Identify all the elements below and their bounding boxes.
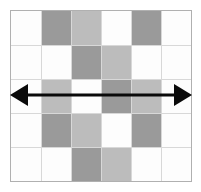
quilt-cell: [41, 79, 71, 113]
quilt-cell: [71, 79, 101, 113]
quilt-cell: [11, 147, 41, 181]
quilt-cell: [101, 79, 131, 113]
quilt-cell: [41, 11, 71, 45]
quilt-cell: [41, 147, 71, 181]
quilt-cell: [131, 79, 161, 113]
quilt-cell: [71, 45, 101, 79]
quilt-cell: [161, 113, 191, 147]
quilt-grid: [11, 11, 191, 181]
quilt-cell: [161, 147, 191, 181]
diagram-canvas: Quilt square with horizontal line of sym…: [0, 0, 201, 192]
quilt-cell: [101, 113, 131, 147]
quilt-cell: [71, 113, 101, 147]
quilt-cell: [71, 147, 101, 181]
quilt-cell: [131, 147, 161, 181]
quilt-cell: [11, 45, 41, 79]
quilt-cell: [161, 11, 191, 45]
quilt-cell: [161, 79, 191, 113]
quilt-square-frame: [10, 10, 192, 182]
quilt-cell: [101, 11, 131, 45]
quilt-cell: [161, 45, 191, 79]
quilt-cell: [11, 11, 41, 45]
quilt-cell: [41, 113, 71, 147]
quilt-cell: [101, 45, 131, 79]
quilt-cell: [71, 11, 101, 45]
quilt-cell: [101, 147, 131, 181]
quilt-cell: [11, 79, 41, 113]
quilt-cell: [131, 113, 161, 147]
quilt-cell: [41, 45, 71, 79]
quilt-cell: [11, 113, 41, 147]
quilt-cell: [131, 11, 161, 45]
quilt-cell: [131, 45, 161, 79]
